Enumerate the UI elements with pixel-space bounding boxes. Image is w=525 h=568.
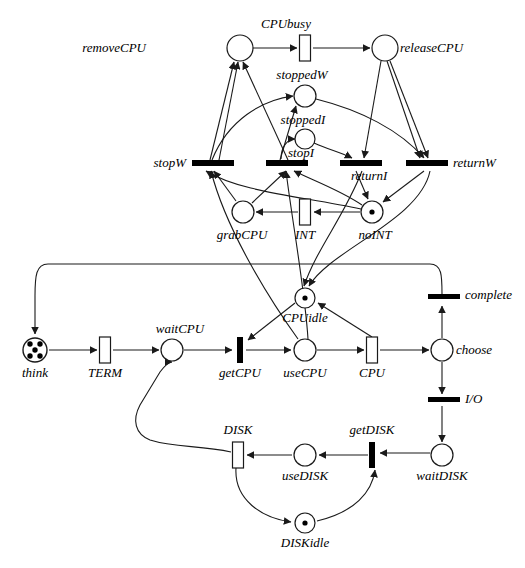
label-INT: INT <box>294 227 316 242</box>
transition-getDISK[interactable] <box>369 442 375 468</box>
label-stopI: stopI <box>288 145 315 160</box>
label-CPUbusy: CPUbusy <box>261 16 311 31</box>
arc-returnW-noINT <box>383 171 424 202</box>
place-DISKidle[interactable] <box>295 513 315 533</box>
transition-returnW[interactable] <box>406 160 448 166</box>
place-stoppedW[interactable] <box>294 85 316 107</box>
arc-stopW-stoppedW <box>212 96 293 160</box>
arc-grabCPU-stopW <box>214 171 236 201</box>
transition-IO[interactable] <box>428 397 460 402</box>
label-getCPU: getCPU <box>219 365 262 380</box>
transition-CPU[interactable] <box>367 337 378 363</box>
label-stopW: stopW <box>154 155 188 170</box>
arc-DISK-waitCPU <box>136 362 231 452</box>
label-TERM: TERM <box>88 365 123 380</box>
place-useCPU[interactable] <box>294 339 316 361</box>
label-complete: complete <box>465 287 512 302</box>
place-think[interactable] <box>23 338 47 362</box>
arc-noINT-stopW <box>206 171 361 209</box>
place-releaseCPU[interactable] <box>372 35 398 61</box>
transition-stopW[interactable] <box>192 160 234 166</box>
arc-complete-think <box>35 264 442 334</box>
transition-TERM[interactable] <box>100 337 111 363</box>
arc-grabCPU-stopI <box>252 171 286 203</box>
label-layer: removeCPU CPUbusy releaseCPU stoppedW st… <box>22 16 512 550</box>
petri-net-canvas: removeCPU CPUbusy releaseCPU stoppedW st… <box>0 0 525 568</box>
place-useDISK[interactable] <box>294 444 316 466</box>
label-choose: choose <box>456 342 492 357</box>
transition-INT[interactable] <box>300 199 311 225</box>
label-releaseCPU: releaseCPU <box>400 40 465 55</box>
transition-stopI[interactable] <box>266 160 308 166</box>
label-grabCPU: grabCPU <box>217 227 269 242</box>
label-IO: I/O <box>464 391 483 406</box>
arc-releaseCPU-returnW2 <box>387 61 420 158</box>
transition-CPUbusy[interactable] <box>300 35 311 61</box>
label-think: think <box>22 365 48 380</box>
label-useCPU: useCPU <box>283 365 328 380</box>
node-layer <box>23 35 460 533</box>
transition-DISK[interactable] <box>233 442 244 468</box>
label-getDISK: getDISK <box>350 422 396 437</box>
petri-net-diagram: removeCPU CPUbusy releaseCPU stoppedW st… <box>0 0 525 568</box>
label-waitCPU: waitCPU <box>156 321 206 336</box>
label-DISK: DISK <box>223 422 254 437</box>
label-returnI: returnI <box>351 168 388 183</box>
place-noINT[interactable] <box>361 201 383 223</box>
place-grabCPU[interactable] <box>232 201 254 223</box>
place-choose[interactable] <box>431 339 453 361</box>
label-CPU: CPU <box>359 365 387 380</box>
place-removeCPU[interactable] <box>227 35 253 61</box>
transition-complete[interactable] <box>428 294 460 299</box>
label-noINT: noINT <box>358 227 392 242</box>
place-CPUidle[interactable] <box>295 288 315 308</box>
label-returnW: returnW <box>453 155 497 170</box>
label-DISKidle: DISKidle <box>280 535 330 550</box>
transition-returnI[interactable] <box>340 160 382 166</box>
arc-stoppedI-returnI <box>314 143 352 158</box>
label-useDISK: useDISK <box>282 468 330 483</box>
label-CPUidle: CPUidle <box>282 310 328 325</box>
label-stoppedI: stoppedI <box>281 112 326 127</box>
place-waitCPU[interactable] <box>161 339 183 361</box>
label-removeCPU: removeCPU <box>82 40 147 55</box>
place-waitDISK[interactable] <box>431 444 453 466</box>
label-waitDISK: waitDISK <box>416 468 469 483</box>
transition-getCPU[interactable] <box>237 337 243 363</box>
arc-releaseCPU-returnI <box>364 61 381 158</box>
label-stoppedW: stoppedW <box>276 67 328 82</box>
